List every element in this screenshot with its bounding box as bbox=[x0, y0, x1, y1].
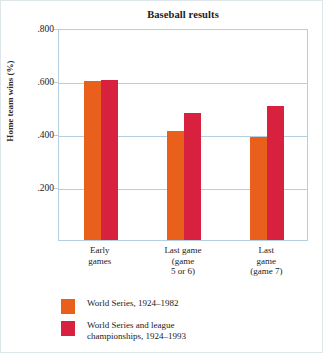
x-axis-tick-label-line: Last bbox=[218, 245, 314, 256]
bar bbox=[101, 80, 118, 240]
chart-title: Baseball results bbox=[58, 9, 308, 20]
legend-label: World Series and leaguechampionships, 19… bbox=[87, 320, 311, 341]
y-axis-tick-label: .800 bbox=[8, 24, 54, 34]
legend-item[interactable]: World Series, 1924–1982 bbox=[61, 298, 311, 314]
legend-label: World Series, 1924–1982 bbox=[87, 298, 311, 309]
bar bbox=[167, 131, 184, 240]
plot-area bbox=[58, 29, 308, 241]
x-axis-tick-label-line: Last game bbox=[135, 245, 231, 256]
bar bbox=[184, 113, 201, 240]
x-axis-tick-label: Earlygames bbox=[52, 245, 148, 266]
y-axis-tick-label: .400 bbox=[8, 130, 54, 140]
x-axis-tick-label-line: (game bbox=[135, 256, 231, 267]
bar-group bbox=[250, 30, 284, 240]
bar bbox=[267, 106, 284, 240]
x-axis-tick-label-line: Early bbox=[52, 245, 148, 256]
x-axis-tick-labels: EarlygamesLast game(game5 or 6)Lastgame(… bbox=[58, 245, 308, 291]
x-axis-tick-label-line: games bbox=[52, 256, 148, 267]
bar bbox=[250, 137, 267, 240]
bar-group bbox=[167, 30, 201, 240]
y-axis-tick-label: .200 bbox=[8, 183, 54, 193]
bar bbox=[84, 81, 101, 240]
legend-swatch bbox=[61, 321, 75, 336]
bar-group bbox=[84, 30, 118, 240]
x-axis-tick-label-line: (game 7) bbox=[218, 266, 314, 277]
x-axis-tick-label: Lastgame(game 7) bbox=[218, 245, 314, 277]
x-axis-tick-label-line: game bbox=[218, 256, 314, 267]
legend-item[interactable]: World Series and leaguechampionships, 19… bbox=[61, 320, 311, 341]
chart-figure: Baseball results Home team wins (%) .800… bbox=[0, 0, 323, 353]
bars-layer bbox=[59, 30, 307, 240]
chart-legend: World Series, 1924–1982World Series and … bbox=[61, 298, 311, 347]
legend-swatch bbox=[61, 299, 75, 314]
y-axis-tick-label: .600 bbox=[8, 77, 54, 87]
x-axis-tick-label: Last game(game5 or 6) bbox=[135, 245, 231, 277]
x-axis-tick-label-line: 5 or 6) bbox=[135, 266, 231, 277]
y-axis-tick-labels: .800.600.400.200 bbox=[6, 29, 54, 241]
